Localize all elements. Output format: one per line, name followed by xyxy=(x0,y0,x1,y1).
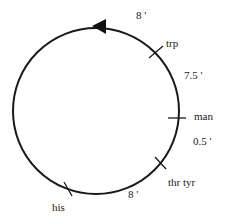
gene-label-man: man xyxy=(194,110,213,122)
gene-label-thr-tyr: thr tyr xyxy=(168,176,196,188)
genetic-map-diagram: trp man thr tyr his 8 ' 7.5 ' 0.5 ' 8 ' xyxy=(0,0,227,218)
distance-label-bottom: 8 ' xyxy=(128,188,138,200)
distance-label-top: 8 ' xyxy=(136,9,146,21)
gene-label-trp: trp xyxy=(166,37,179,49)
distance-label-trp-man: 7.5 ' xyxy=(184,69,203,81)
gene-label-his: his xyxy=(52,201,65,213)
distance-label-man-thr: 0.5 ' xyxy=(193,135,212,147)
direction-arrow-icon xyxy=(92,19,106,34)
